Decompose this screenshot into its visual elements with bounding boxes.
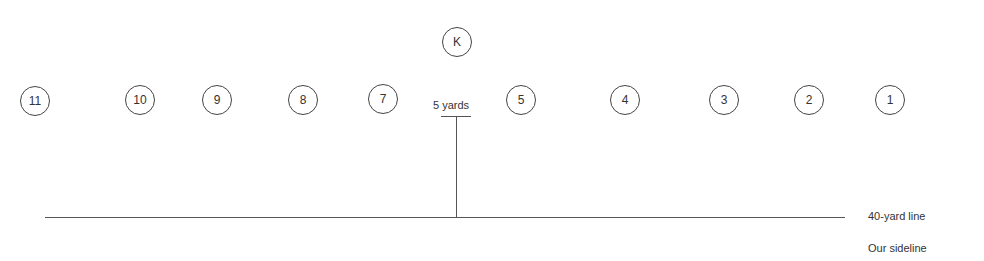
kicker-label: K [453, 35, 461, 49]
player-label: 2 [806, 93, 813, 107]
player-label: 10 [133, 93, 146, 107]
player-label: 4 [622, 93, 629, 107]
player-label: 7 [380, 92, 387, 106]
player-3: 3 [709, 85, 739, 115]
distance-marker [456, 116, 457, 217]
sideline-label: Our sideline [868, 242, 927, 254]
player-1: 1 [875, 85, 905, 115]
player-7: 7 [368, 84, 398, 114]
player-2: 2 [794, 85, 824, 115]
forty-yard-line [45, 217, 845, 218]
player-label: 3 [721, 93, 728, 107]
kicker: K [442, 27, 472, 57]
forty-yard-line-label: 40-yard line [868, 210, 925, 222]
player-label: 5 [518, 93, 525, 107]
player-label: 1 [887, 93, 894, 107]
player-label: 8 [300, 93, 307, 107]
player-10: 10 [125, 85, 155, 115]
player-label: 9 [214, 93, 221, 107]
player-5: 5 [506, 85, 536, 115]
distance-label: 5 yards [433, 99, 469, 111]
player-11: 11 [20, 86, 50, 116]
player-label: 11 [29, 94, 41, 108]
player-9: 9 [202, 85, 232, 115]
player-4: 4 [610, 85, 640, 115]
player-8: 8 [288, 85, 318, 115]
